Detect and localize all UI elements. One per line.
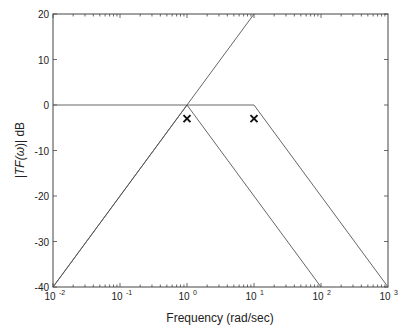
x-axis-label: Frequency (rad/sec) [166, 311, 273, 325]
y-tick-label: -10 [35, 146, 50, 157]
x-tick-label: 10 [111, 291, 123, 302]
y-tick-label: 10 [38, 55, 50, 66]
svg-text:-2: -2 [59, 289, 65, 296]
x-tick-label: 10 [44, 291, 56, 302]
y-tick-label: 20 [38, 9, 50, 20]
x-tick-label: 10 [245, 291, 257, 302]
x-tick-label: 10 [379, 291, 391, 302]
svg-text:1: 1 [260, 289, 264, 296]
data-markers [184, 115, 258, 122]
x-tick-label: 10 [312, 291, 324, 302]
svg-text:3: 3 [394, 289, 398, 296]
y-tick-label: 0 [43, 100, 49, 111]
y-tick-label: -30 [35, 237, 50, 248]
y-axis-label: |TF(ω)| dB [13, 122, 27, 178]
svg-text:2: 2 [327, 289, 331, 296]
x-tick-labels: 10-210-1100101102103 [44, 289, 398, 302]
y-tick-labels: 20100-10-20-30-40 [35, 9, 50, 293]
bode-magnitude-chart: 20100-10-20-30-40 10-210-1100101102103 F… [0, 0, 409, 329]
y-tick-label: -20 [35, 191, 50, 202]
svg-text:-1: -1 [126, 289, 132, 296]
svg-text:0: 0 [193, 289, 197, 296]
series-line [53, 105, 321, 287]
x-tick-label: 10 [178, 291, 190, 302]
data-series [53, 14, 388, 287]
series-line [53, 105, 388, 287]
